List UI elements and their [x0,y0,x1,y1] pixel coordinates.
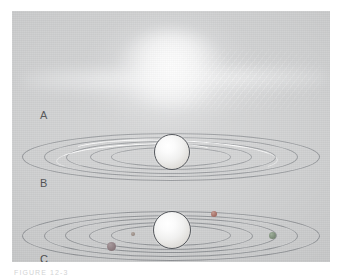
panel-label-b: B [40,178,48,189]
illustration-panel: A B C [12,11,330,262]
moon-lower-left [107,242,116,251]
panel-label-c: C [40,254,48,262]
nebula-striation [180,49,320,111]
moon-inner-mid [131,232,135,236]
panel-label-a: A [40,110,48,121]
moon-upper-right [211,211,217,217]
figure-caption: FIGURE 12-3 [14,268,214,277]
moon-right-edge [269,232,276,239]
planet-b [154,134,190,170]
panel-c-ring-system [12,201,330,262]
figure-plate: A B C FIGURE 12-3 [0,0,342,279]
planet-c [153,211,191,249]
panel-b-ring-system [12,125,330,187]
panel-a-nebula [12,23,330,121]
